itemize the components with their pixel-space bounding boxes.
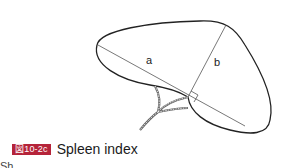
axis-label-b: b xyxy=(214,56,220,68)
caption-title: Spleen index xyxy=(57,141,138,157)
spleen-outline-drawing: a b xyxy=(0,0,287,140)
spleen-diagram: a b xyxy=(0,0,287,140)
truncated-subtext: Sh... xyxy=(0,160,23,168)
axis-label-a: a xyxy=(146,54,153,66)
figure-number-badge: 図10-2c xyxy=(12,144,51,155)
figure-caption: 図10-2c Spleen index xyxy=(12,141,138,157)
